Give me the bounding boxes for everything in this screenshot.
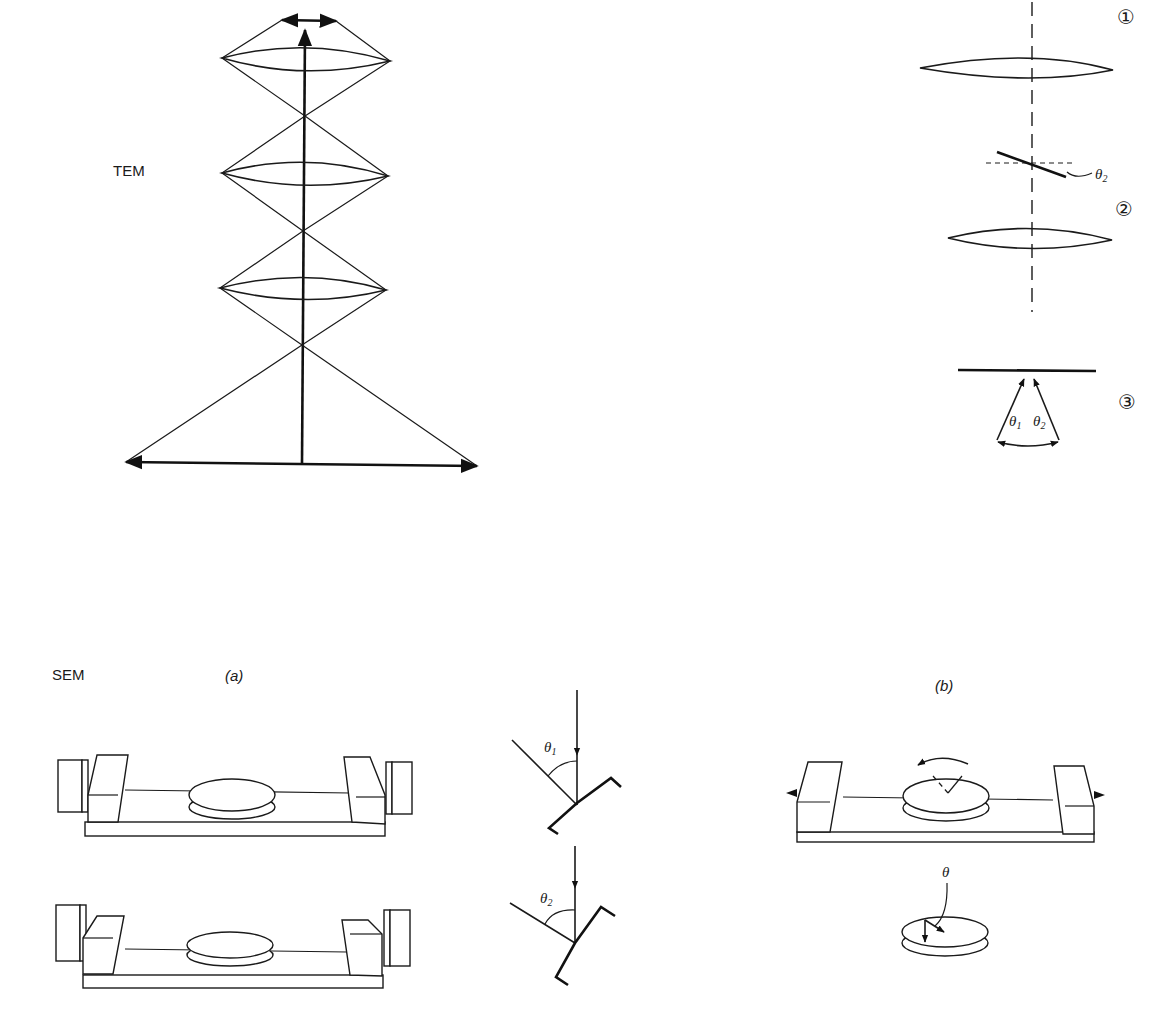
marker-3: ③	[1118, 390, 1136, 414]
sem-stage-a-bottom	[56, 905, 410, 988]
left-block	[88, 755, 128, 822]
specimen-holder-top	[549, 778, 621, 834]
lower-lens	[948, 228, 1112, 248]
right-block	[342, 920, 382, 976]
theta1-label-sem: θ1	[544, 739, 556, 757]
beam-theta2	[1034, 379, 1059, 440]
sem-label: SEM	[52, 666, 85, 683]
ray-left	[126, 20, 388, 462]
part-a-label: (a)	[225, 667, 243, 684]
right-clamp	[392, 762, 412, 814]
sem-stage-b	[786, 758, 1105, 842]
base-plate	[797, 832, 1094, 842]
specimen-normal-bottom	[510, 903, 575, 943]
right-block	[1054, 766, 1094, 834]
optic-axis-arrow	[302, 30, 305, 463]
theta1-label: θ1	[1009, 413, 1021, 431]
top-image-arrow	[282, 20, 336, 21]
tem-label: TEM	[113, 162, 145, 179]
theta2-label: θ2	[1033, 413, 1045, 431]
right-clamp	[390, 910, 410, 966]
right-arrow-icon	[1094, 791, 1105, 799]
tem-tilt-diagram: ① ② ③ θ2 θ1 θ2	[920, 2, 1136, 446]
specimen-holder-bottom	[556, 907, 615, 985]
marker-2: ②	[1115, 197, 1133, 221]
rotation-arrow	[918, 758, 968, 765]
base-plate	[83, 975, 383, 988]
tem-ray-diagram: TEM	[113, 20, 477, 466]
specimen-disc	[189, 779, 275, 811]
ray-right	[220, 21, 477, 466]
theta-label: θ	[942, 864, 950, 880]
viewing-screen	[958, 370, 1096, 371]
sem-stage-a-top	[58, 755, 412, 836]
theta2-tilt-label: θ2	[1095, 166, 1107, 184]
theta2-label-sem: θ2	[540, 890, 552, 908]
marker-1: ①	[1117, 5, 1135, 29]
sem-rotation-detail: θ	[902, 864, 988, 956]
tilted-specimen	[997, 152, 1066, 177]
part-b-label: (b)	[935, 677, 953, 694]
left-clamp	[56, 905, 80, 961]
specimen-disc	[187, 932, 273, 958]
right-clamp-edge	[384, 910, 390, 966]
left-clamp-edge	[82, 760, 88, 812]
left-arrow-icon	[786, 789, 797, 797]
angle-arc-top	[548, 761, 577, 776]
angle-arc-bottom	[545, 910, 575, 924]
left-block	[83, 916, 124, 974]
right-clamp-edge	[386, 762, 392, 814]
specimen-disc	[903, 779, 989, 813]
sem-tilt-geometry: θ1 θ2	[510, 690, 621, 985]
right-block	[344, 757, 385, 824]
upper-lens	[920, 58, 1113, 78]
diagram-canvas: TEM ① ② ③ θ2 θ1	[0, 0, 1176, 1020]
angle-arc-arrow	[998, 442, 1058, 446]
tilt-leader	[1067, 172, 1092, 176]
base-plate	[85, 822, 385, 836]
left-clamp	[58, 760, 82, 812]
left-block	[797, 762, 842, 832]
disc-top	[902, 917, 988, 947]
